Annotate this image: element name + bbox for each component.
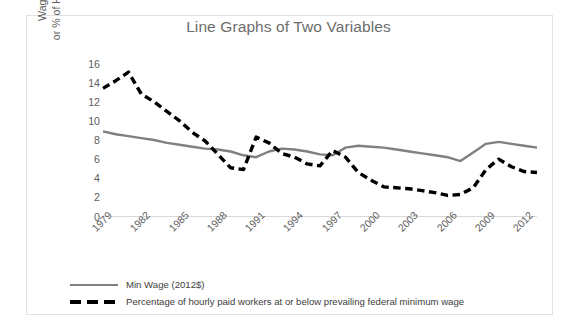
- legend-item-min-wage: Min Wage (2012$): [70, 276, 464, 293]
- legend-swatch-solid-line: [70, 280, 118, 290]
- legend-label-min-wage: Min Wage (2012$): [126, 279, 205, 290]
- legend-swatch-dashed-line: [70, 297, 118, 307]
- legend-label-percentage: Percentage of hourly paid workers at or …: [126, 296, 464, 307]
- legend-item-percentage: Percentage of hourly paid workers at or …: [70, 293, 464, 310]
- series-line-percentage: [103, 72, 537, 195]
- chart-legend: Min Wage (2012$) Percentage of hourly pa…: [70, 276, 464, 310]
- series-line-min-wage: [103, 131, 537, 161]
